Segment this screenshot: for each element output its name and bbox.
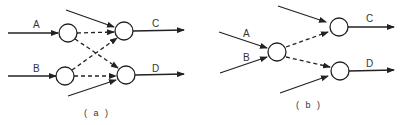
caption-a: ( a ) <box>84 108 110 118</box>
label-a-input-b: B <box>33 63 40 74</box>
caption-b: ( b ) <box>296 100 322 110</box>
label-a-output-d: D <box>152 63 159 74</box>
label-b-output-c: C <box>366 13 373 24</box>
label-a-input-a: A <box>33 19 40 30</box>
label-b-input-b: B <box>243 52 250 63</box>
label-b-output-d: D <box>366 58 373 69</box>
label-b-input-a: A <box>243 28 250 39</box>
diagram-canvas: A B C D ( a ) A B C D ( b ) <box>0 0 407 125</box>
label-a-output-c: C <box>152 18 159 29</box>
